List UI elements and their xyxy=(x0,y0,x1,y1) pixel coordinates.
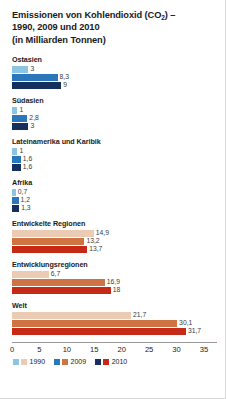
bar-row: 2,8 xyxy=(12,115,217,122)
axis-tick: 25 xyxy=(145,345,153,354)
legend-swatch-red xyxy=(62,359,68,365)
bar-row: 1,6 xyxy=(12,156,217,163)
legend-swatch-blue xyxy=(13,359,19,365)
bar-value-label: 1,2 xyxy=(21,197,30,204)
group-bars: 11,61,6 xyxy=(12,148,217,171)
title-line-1-part-b: ) – xyxy=(165,10,176,20)
group-label: Lateinamerika und Karibik xyxy=(12,137,217,146)
bar-row: 1 xyxy=(12,148,217,155)
chart-group: Entwickelte Regionen14,913,213,7 xyxy=(12,219,217,253)
bar-value-label: 2,8 xyxy=(29,115,38,122)
group-bars: 14,913,213,7 xyxy=(12,230,217,253)
axis-tick: 15 xyxy=(90,345,98,354)
bar-value-label: 1,6 xyxy=(23,164,32,171)
group-label: Ostasien xyxy=(12,55,217,64)
title-line-2: 1990, 2009 und 2010 xyxy=(12,22,100,32)
axis-tick: 20 xyxy=(117,345,125,354)
bar-row: 3 xyxy=(12,123,217,130)
bar-value-label: 14,9 xyxy=(96,230,109,237)
bar-value-label: 21,7 xyxy=(133,312,146,319)
bar-value-label: 13,2 xyxy=(86,238,99,245)
axis-tick: 10 xyxy=(63,345,71,354)
bar-value-label: 30,1 xyxy=(179,320,192,327)
legend-item-1990[interactable]: 1990 xyxy=(13,358,45,365)
chart-legend: 199020092010 xyxy=(12,358,217,365)
legend-swatch-blue xyxy=(95,359,101,365)
bar-1990 xyxy=(12,148,17,155)
legend-item-2010[interactable]: 2010 xyxy=(95,358,127,365)
bar-2009 xyxy=(12,115,27,122)
bar-2009 xyxy=(12,74,58,81)
title-line-1-part-a: Emissionen von Kohlendioxid (CO xyxy=(12,10,161,20)
axis-tick: 30 xyxy=(172,345,180,354)
bar-row: 18 xyxy=(12,287,217,294)
group-bars: 6,716,918 xyxy=(12,271,217,294)
bar-row: 6,7 xyxy=(12,271,217,278)
bar-2009 xyxy=(12,320,177,327)
bar-value-label: 1 xyxy=(19,148,23,155)
bar-value-label: 9 xyxy=(63,82,67,89)
bar-row: 14,9 xyxy=(12,230,217,237)
bar-row: 0,7 xyxy=(12,189,217,196)
bar-row: 8,3 xyxy=(12,74,217,81)
bar-row: 16,9 xyxy=(12,279,217,286)
axis-tick: 5 xyxy=(37,345,41,354)
legend-item-2009[interactable]: 2009 xyxy=(54,358,86,365)
bar-value-label: 3 xyxy=(30,66,34,73)
group-label: Welt xyxy=(12,301,217,310)
legend-label: 2010 xyxy=(112,358,128,365)
axis-tick: 35 xyxy=(200,345,208,354)
bar-2010 xyxy=(12,123,28,130)
bar-value-label: 18 xyxy=(113,287,121,294)
bar-row: 3 xyxy=(12,66,217,73)
legend-swatch-red xyxy=(21,359,27,365)
bar-value-label: 8,3 xyxy=(60,74,69,81)
bar-2010 xyxy=(12,328,186,335)
bar-2010 xyxy=(12,246,87,253)
bar-2009 xyxy=(12,279,105,286)
page-title: Emissionen von Kohlendioxid (CO2) – 1990… xyxy=(12,9,217,46)
bar-2010 xyxy=(12,164,21,171)
bar-1990 xyxy=(12,66,28,73)
bar-1990 xyxy=(12,271,49,278)
bar-2009 xyxy=(12,197,19,204)
bar-2009 xyxy=(12,238,84,245)
bar-2010 xyxy=(12,82,61,89)
bar-2010 xyxy=(12,205,19,212)
legend-label: 2009 xyxy=(71,358,87,365)
bar-1990 xyxy=(12,189,16,196)
bar-row: 1,3 xyxy=(12,205,217,212)
bar-row: 30,1 xyxy=(12,320,217,327)
bar-1990 xyxy=(12,312,131,319)
group-label: Südasien xyxy=(12,96,217,105)
group-bars: 38,39 xyxy=(12,66,217,89)
bar-row: 1,6 xyxy=(12,164,217,171)
group-label: Entwicklungsregionen xyxy=(12,260,217,269)
bar-row: 13,7 xyxy=(12,246,217,253)
bar-row: 1 xyxy=(12,107,217,114)
title-subscript: 2 xyxy=(161,14,165,21)
bar-1990 xyxy=(12,230,94,237)
group-bars: 12,83 xyxy=(12,107,217,130)
group-label: Entwickelte Regionen xyxy=(12,219,217,228)
bar-value-label: 1 xyxy=(19,107,23,114)
bar-value-label: 6,7 xyxy=(51,271,60,278)
title-line-3: (in Milliarden Tonnen) xyxy=(12,35,106,45)
chart-group: Entwicklungsregionen6,716,918 xyxy=(12,260,217,294)
bar-row: 21,7 xyxy=(12,312,217,319)
group-bars: 0,71,21,3 xyxy=(12,189,217,212)
bar-row: 31,7 xyxy=(12,328,217,335)
bar-value-label: 31,7 xyxy=(188,328,201,335)
chart-group: Südasien12,83 xyxy=(12,96,217,130)
bar-row: 9 xyxy=(12,82,217,89)
group-label: Afrika xyxy=(12,178,217,187)
x-axis: 05101520253035 xyxy=(12,342,217,356)
bar-row: 13,2 xyxy=(12,238,217,245)
group-bars: 21,730,131,7 xyxy=(12,312,217,335)
bar-value-label: 3 xyxy=(30,123,34,130)
bar-value-label: 16,9 xyxy=(107,279,120,286)
legend-swatch-blue xyxy=(54,359,60,365)
bar-value-label: 1,3 xyxy=(21,205,30,212)
bar-value-label: 13,7 xyxy=(89,246,102,253)
bar-value-label: 0,7 xyxy=(18,189,27,196)
